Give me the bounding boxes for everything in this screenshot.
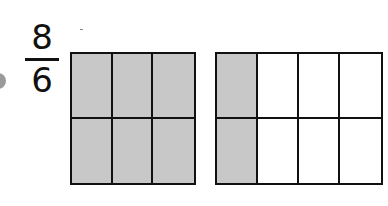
shaded-cell bbox=[217, 119, 258, 184]
shaded-cell bbox=[113, 54, 154, 119]
empty-cell bbox=[340, 54, 381, 119]
empty-cell bbox=[258, 54, 299, 119]
shaded-cell bbox=[113, 119, 154, 184]
shaded-cell bbox=[217, 54, 258, 119]
bullet-marker bbox=[0, 73, 6, 89]
shaded-cell bbox=[72, 54, 113, 119]
fraction-model-whole-2 bbox=[215, 52, 383, 185]
empty-cell bbox=[299, 119, 340, 184]
empty-cell bbox=[299, 54, 340, 119]
stray-mark bbox=[80, 29, 83, 30]
fraction-model-whole-1 bbox=[70, 52, 196, 185]
fraction-numerator: 8 bbox=[22, 20, 62, 56]
shaded-cell bbox=[153, 119, 194, 184]
empty-cell bbox=[258, 119, 299, 184]
fraction: 8 6 bbox=[22, 20, 62, 97]
shaded-cell bbox=[72, 119, 113, 184]
shaded-cell bbox=[153, 54, 194, 119]
empty-cell bbox=[340, 119, 381, 184]
fraction-denominator: 6 bbox=[22, 63, 62, 97]
